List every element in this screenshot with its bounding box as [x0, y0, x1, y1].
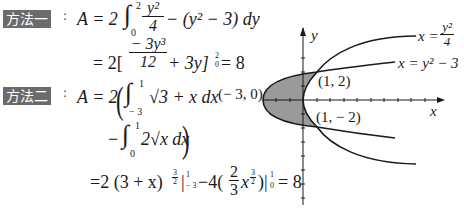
point-lower-label: (1, − 2) [316, 109, 361, 126]
y-axis-arrow [300, 27, 306, 36]
point-vertex-label: (− 3, 0) [218, 86, 263, 103]
x-axis-arrow [437, 97, 445, 103]
curve1-label-lhs: x = [418, 28, 439, 45]
curve2-label: x = y² − 3 [398, 55, 459, 72]
point-upper-label: (1, 2) [318, 73, 351, 90]
y-axis-label: y [311, 27, 318, 44]
curve1-label-fraction: y² 4 [440, 20, 454, 49]
x-axis-label: x [430, 103, 437, 120]
region-graph [0, 0, 464, 211]
